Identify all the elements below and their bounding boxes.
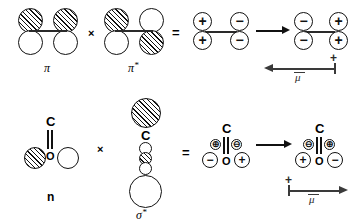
product-bottom-right-outer-charge-right: − bbox=[327, 152, 343, 168]
multiply-operator-top: × bbox=[88, 28, 94, 39]
multiply-operator-bottom: × bbox=[97, 144, 103, 155]
product-top-left-bond-line bbox=[205, 31, 237, 33]
sigma-star-orbital-label: σ* bbox=[136, 209, 146, 220]
product-bottom-left-outer-charge-right: + bbox=[234, 152, 250, 168]
product-bottom-right-outer-charge-left: + bbox=[295, 152, 311, 168]
pi-star-orbital-label-star: * bbox=[135, 60, 140, 70]
pi-orbital-bond-line bbox=[29, 30, 67, 32]
product-bottom-left-outer-charge-left-text: − bbox=[206, 154, 213, 166]
product-top-right-charge-right-bottom-text: + bbox=[334, 33, 342, 47]
product-top-left-charge-left-bottom-text: + bbox=[198, 33, 206, 47]
product-bottom-left-inner-charge-right-text: ⊖ bbox=[233, 140, 241, 149]
dipole-arrow-top-shaft bbox=[272, 68, 334, 70]
product-top-left-charge-right-top-text: − bbox=[235, 14, 243, 28]
product-top-right-charge-left-top: − bbox=[294, 12, 313, 31]
reaction-arrow-bottom bbox=[256, 139, 292, 151]
product-top-right-charge-left-bottom: − bbox=[294, 31, 313, 50]
product-bottom-left-inner-charge-left: ⊕ bbox=[210, 139, 221, 150]
product-bottom-right-double-bond-line-1 bbox=[316, 137, 318, 154]
product-bottom-right-inner-charge-left-text: ⊖ bbox=[305, 140, 313, 149]
sigma-star-orbital-label-star: * bbox=[142, 207, 147, 217]
equals-operator-top: = bbox=[172, 26, 180, 39]
product-bottom-left-inner-charge-left-text: ⊕ bbox=[212, 140, 220, 149]
product-top-left-charge-left-top: + bbox=[193, 12, 212, 31]
product-bottom-right-inner-charge-left: ⊖ bbox=[303, 139, 314, 150]
product-top-right-charge-right-top: + bbox=[329, 12, 348, 31]
pi-orbital-lobe-left-bottom bbox=[18, 30, 43, 55]
product-bottom-left-outer-charge-right-text: + bbox=[238, 154, 245, 166]
reaction-arrow-top-head bbox=[282, 26, 290, 34]
product-bottom-right-inner-charge-right-text: ⊕ bbox=[326, 140, 334, 149]
n-orbital-carbon-label: C bbox=[46, 115, 55, 128]
product-bottom-right-outer-charge-right-text: − bbox=[331, 154, 338, 166]
product-bottom-right-inner-charge-right: ⊕ bbox=[324, 139, 335, 150]
product-top-left-charge-right-bottom-text: − bbox=[235, 33, 243, 47]
product-top-right-charge-left-top-text: − bbox=[299, 14, 307, 28]
product-top-right-charge-left-bottom-text: − bbox=[299, 33, 307, 47]
sigma-star-orbital-lobe-small-lower bbox=[139, 162, 152, 175]
n-orbital-lobe-left bbox=[24, 147, 46, 169]
n-orbital-double-bond-line-1 bbox=[47, 130, 49, 149]
n-orbital-double-bond-line-2 bbox=[51, 130, 53, 149]
sigma-star-orbital-lobe-bottom-large bbox=[129, 175, 162, 208]
dipole-arrow-bottom-plus-sign: + bbox=[285, 174, 292, 186]
pi-star-orbital-label: π* bbox=[128, 62, 139, 74]
product-top-right-charge-right-bottom: + bbox=[329, 31, 348, 50]
product-bottom-left-inner-charge-right: ⊖ bbox=[231, 139, 242, 150]
product-top-left-charge-right-top: − bbox=[230, 12, 249, 31]
dipole-arrow-top-mu-symbol: μ bbox=[295, 72, 301, 83]
reaction-arrow-top-shaft bbox=[256, 30, 283, 32]
product-bottom-right-outer-charge-left-text: + bbox=[299, 154, 306, 166]
pi-star-orbital-bond-line bbox=[115, 30, 153, 32]
reaction-arrow-bottom-head bbox=[284, 140, 292, 148]
n-orbital-oxygen-label: O bbox=[46, 151, 55, 162]
equals-operator-bottom: = bbox=[182, 146, 190, 159]
pi-orbital-lobe-right-bottom bbox=[53, 30, 78, 55]
product-bottom-left-oxygen-label: O bbox=[222, 156, 231, 167]
dipole-arrow-top-plus-sign: + bbox=[330, 52, 337, 64]
product-bottom-left-carbon-label: C bbox=[222, 122, 231, 135]
product-bottom-left-outer-charge-left: − bbox=[202, 152, 218, 168]
dipole-arrow-bottom-mu-symbol: μ bbox=[309, 194, 315, 205]
pi-orbital-label: π bbox=[44, 62, 50, 74]
pi-star-orbital-lobe-right-bottom bbox=[139, 30, 164, 55]
n-orbital-label: n bbox=[47, 191, 54, 203]
sigma-star-orbital-carbon-label: C bbox=[141, 129, 150, 142]
product-top-left-charge-left-top-text: + bbox=[198, 14, 206, 28]
product-bottom-right-double-bond-line-2 bbox=[320, 137, 322, 154]
product-bottom-left-double-bond-line-1 bbox=[223, 137, 225, 154]
figure-canvas: π × π* = + + − − − − + + + μ C O n bbox=[0, 0, 354, 220]
dipole-arrow-bottom-shaft bbox=[288, 190, 340, 192]
pi-star-orbital-label-text: π bbox=[128, 61, 134, 75]
product-bottom-right-carbon-label: C bbox=[315, 122, 324, 135]
product-top-right-charge-right-top-text: + bbox=[334, 14, 342, 28]
reaction-arrow-bottom-shaft bbox=[256, 144, 285, 146]
product-bottom-left-double-bond-line-2 bbox=[227, 137, 229, 154]
dipole-arrow-bottom-head bbox=[339, 186, 348, 194]
dipole-arrow-top-head bbox=[264, 64, 273, 72]
product-bottom-right-oxygen-label: O bbox=[315, 156, 324, 167]
n-orbital-lobe-right bbox=[57, 147, 79, 169]
pi-star-orbital-lobe-left-bottom bbox=[104, 30, 129, 55]
sigma-star-orbital-lobe-top-large bbox=[131, 98, 161, 128]
product-top-left-charge-left-bottom: + bbox=[193, 31, 212, 50]
reaction-arrow-top bbox=[256, 25, 290, 37]
product-top-left-charge-right-bottom: − bbox=[230, 31, 249, 50]
